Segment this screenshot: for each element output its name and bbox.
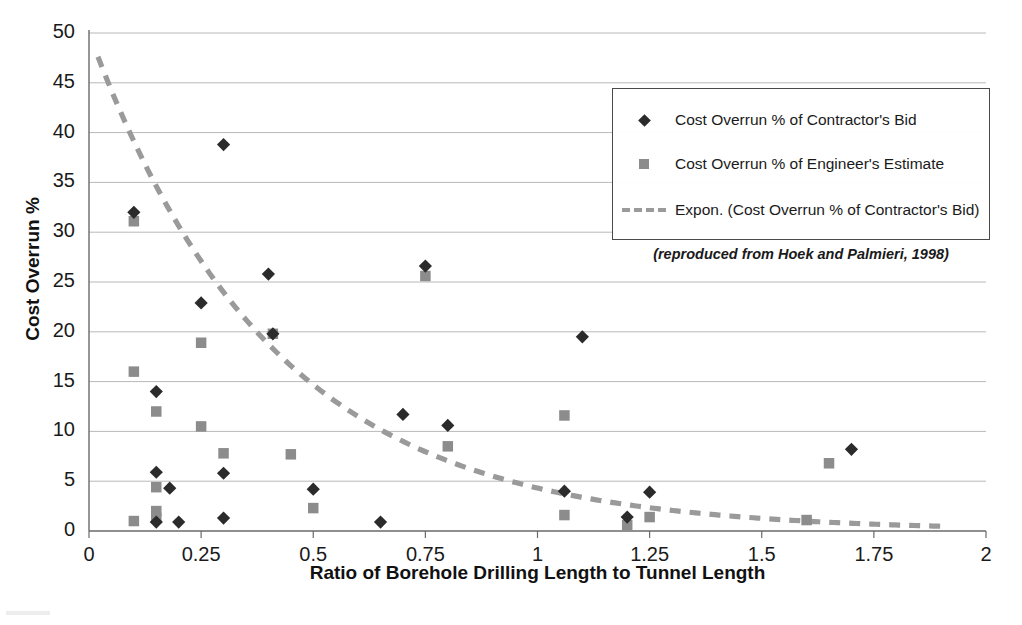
data-point-contractors-bid xyxy=(374,515,387,528)
legend-item-contractors-bid: Cost Overrun % of Contractor's Bid xyxy=(613,103,991,137)
data-point-engineers-estimate xyxy=(129,366,140,377)
data-point-contractors-bid xyxy=(558,485,571,498)
data-point-engineers-estimate xyxy=(151,406,162,417)
y-tick-label: 10 xyxy=(27,418,75,441)
y-tick-label: 5 xyxy=(27,468,75,491)
chart-legend: Cost Overrun % of Contractor's Bid Cost … xyxy=(612,88,990,240)
diamond-marker-icon xyxy=(613,116,675,125)
source-credit-note: (reproduced from Hoek and Palmieri, 1998… xyxy=(612,246,990,262)
dashed-line-icon xyxy=(613,208,675,212)
x-axis-title: Ratio of Borehole Drilling Length to Tun… xyxy=(89,562,986,584)
data-point-engineers-estimate xyxy=(443,441,454,452)
legend-label-trendline: Expon. (Cost Overrun % of Contractor's B… xyxy=(675,201,979,219)
data-point-engineers-estimate xyxy=(218,448,229,459)
series-engineers-estimate-markers xyxy=(129,216,835,530)
data-point-contractors-bid xyxy=(441,419,454,432)
data-point-contractors-bid xyxy=(150,385,163,398)
data-point-contractors-bid xyxy=(195,296,208,309)
data-point-contractors-bid xyxy=(217,138,230,151)
y-axis-title: Cost Overrun % xyxy=(22,174,44,364)
data-point-contractors-bid xyxy=(150,466,163,479)
data-point-contractors-bid xyxy=(845,443,858,456)
y-tick-label: 15 xyxy=(27,369,75,392)
data-point-contractors-bid xyxy=(396,408,409,421)
data-point-engineers-estimate xyxy=(129,516,140,527)
data-point-engineers-estimate xyxy=(559,510,570,521)
page-scan-artifact xyxy=(6,611,50,615)
y-tick-label: 45 xyxy=(27,70,75,93)
legend-item-engineers-estimate: Cost Overrun % of Engineer's Estimate xyxy=(613,147,991,181)
data-point-contractors-bid xyxy=(307,483,320,496)
data-point-engineers-estimate xyxy=(824,458,835,469)
data-point-contractors-bid xyxy=(217,511,230,524)
data-point-engineers-estimate xyxy=(286,449,297,460)
chart-figure: 05101520253035404550 00.250.50.7511.251.… xyxy=(0,0,1022,625)
data-point-engineers-estimate xyxy=(196,421,207,432)
legend-label-engineers-estimate: Cost Overrun % of Engineer's Estimate xyxy=(675,155,944,173)
y-tick-label: 40 xyxy=(27,120,75,143)
x-tick-marks-group xyxy=(89,531,986,538)
data-point-engineers-estimate xyxy=(151,482,162,493)
y-tick-label: 0 xyxy=(27,518,75,541)
square-marker-icon xyxy=(613,159,675,169)
legend-label-contractors-bid: Cost Overrun % of Contractor's Bid xyxy=(675,111,917,129)
data-point-engineers-estimate xyxy=(801,515,812,526)
data-point-contractors-bid xyxy=(419,259,432,272)
data-point-engineers-estimate xyxy=(559,410,570,421)
data-point-contractors-bid xyxy=(217,467,230,480)
data-point-contractors-bid xyxy=(262,267,275,280)
data-point-contractors-bid xyxy=(172,515,185,528)
data-point-engineers-estimate xyxy=(196,338,207,349)
data-point-contractors-bid xyxy=(163,482,176,495)
y-tick-label: 50 xyxy=(27,20,75,43)
data-point-contractors-bid xyxy=(643,486,656,499)
legend-item-trendline: Expon. (Cost Overrun % of Contractor's B… xyxy=(613,193,991,227)
data-point-engineers-estimate xyxy=(644,512,655,523)
data-point-engineers-estimate xyxy=(308,503,319,513)
